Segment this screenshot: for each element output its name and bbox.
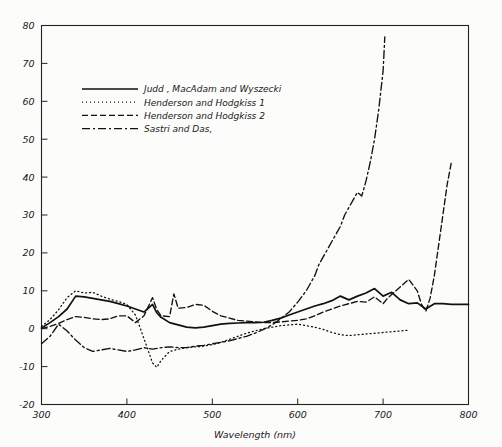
x-axis-title: Wavelength (nm) (214, 429, 296, 440)
plot-frame (42, 26, 469, 405)
series-line-2 (42, 162, 452, 329)
y-tick-label-50: 50 (22, 134, 34, 145)
y-tick-label-60: 60 (22, 96, 34, 107)
x-tick-label-400: 400 (118, 409, 136, 420)
legend-label-0: Judd , MacAdam and Wyszecki (142, 84, 282, 94)
y-tick-label-20: 20 (22, 247, 34, 258)
y-tick-label-70: 70 (22, 58, 34, 69)
legend-group: Judd , MacAdam and WyszeckiHenderson and… (82, 84, 282, 134)
y-tick-label-30: 30 (22, 209, 34, 220)
y-tick-label-10: 10 (22, 285, 34, 296)
x-tick-label-600: 600 (289, 409, 307, 420)
x-tick-label-700: 700 (374, 409, 392, 420)
y-tick-label-40: 40 (22, 172, 34, 183)
legend-label-2: Henderson and Hodgkiss 2 (144, 111, 265, 121)
legend-label-3: Sastri and Das, (144, 124, 212, 134)
y-tick-label--10: -10 (19, 361, 35, 372)
x-tick-label-500: 500 (203, 409, 221, 420)
y-tick-label-0: 0 (28, 323, 34, 334)
y-tick-label-80: 80 (22, 20, 34, 31)
legend-label-1: Henderson and Hodgkiss 1 (144, 98, 265, 108)
axes-group: -20-100102030405060708030040050060070080… (19, 20, 478, 440)
x-tick-label-300: 300 (32, 409, 50, 420)
x-tick-label-800: 800 (459, 409, 477, 420)
figure-container: -20-100102030405060708030040050060070080… (0, 0, 502, 447)
spectral-residual-chart: -20-100102030405060708030040050060070080… (0, 0, 502, 447)
